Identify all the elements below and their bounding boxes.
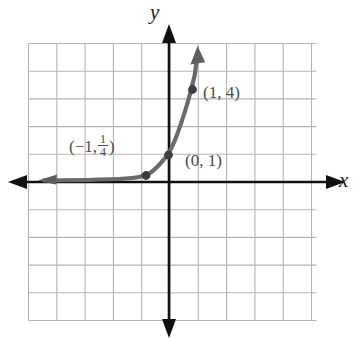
- fraction-one-quarter: 1 4: [98, 133, 108, 158]
- point-label-1-4: (1, 4): [203, 84, 240, 101]
- graph-figure: y x (1, 4) (0, 1) (−1, 1 4 ): [0, 0, 361, 338]
- x-axis-label: x: [339, 170, 348, 191]
- point-label-neg1-quarter: (−1, 1 4 ): [69, 134, 115, 159]
- point-marker-1-4: [188, 85, 197, 94]
- point-label-neg1-suffix: ): [109, 138, 115, 155]
- point-marker-0-1: [164, 151, 173, 160]
- fraction-numerator: 1: [98, 133, 108, 145]
- coordinate-plane: [0, 0, 361, 338]
- fraction-denominator: 4: [98, 146, 108, 158]
- point-label-neg1-prefix: (−1,: [69, 138, 97, 155]
- point-label-0-1: (0, 1): [185, 152, 222, 169]
- y-axis-label: y: [150, 2, 159, 23]
- point-marker-neg1-quarter: [142, 171, 151, 180]
- exponential-curve: [38, 46, 205, 185]
